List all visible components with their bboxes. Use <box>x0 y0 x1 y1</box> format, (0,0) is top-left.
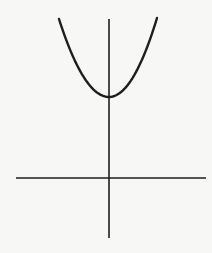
parabola-curve <box>59 18 157 97</box>
parabola-figure <box>0 0 212 253</box>
